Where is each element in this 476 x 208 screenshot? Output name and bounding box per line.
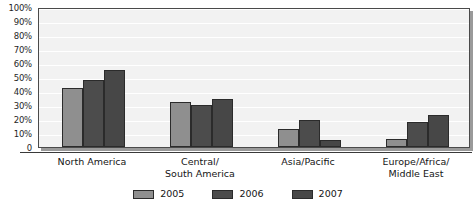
bar-2007-3[interactable] xyxy=(428,115,449,147)
y-axis-tick-label: 50% xyxy=(14,74,32,83)
y-axis-tick-label: 30% xyxy=(14,102,32,111)
bar-2006-2[interactable] xyxy=(299,120,320,147)
bar-chart: 010%20%30%40%50%60%70%80%90%100% North A… xyxy=(0,0,476,208)
y-axis-tick-label: 20% xyxy=(14,116,32,125)
y-axis-tick-label: 60% xyxy=(14,60,32,69)
legend-swatch-icon xyxy=(212,190,233,199)
bar-2007-2[interactable] xyxy=(320,140,341,147)
legend-swatch-icon xyxy=(133,190,154,199)
y-axis-tick-label: 80% xyxy=(14,32,32,41)
x-axis-category-label: Central/ South America xyxy=(165,156,235,179)
legend-item-label: 2006 xyxy=(239,189,263,199)
bar-2005-3[interactable] xyxy=(386,139,407,147)
x-axis-category-label: North America xyxy=(58,156,127,168)
legend-item-2007[interactable]: 2007 xyxy=(292,189,343,199)
bar-2005-1[interactable] xyxy=(170,102,191,147)
bar-2006-3[interactable] xyxy=(407,122,428,147)
x-axis-category-labels: North AmericaCentral/ South AmericaAsia/… xyxy=(38,156,470,186)
bar-group xyxy=(170,9,233,147)
y-axis: 010%20%30%40%50%60%70%80%90%100% xyxy=(0,0,36,152)
x-axis-category-label: Asia/Pacific xyxy=(281,156,334,168)
bar-group xyxy=(62,9,125,147)
bar-2006-1[interactable] xyxy=(191,105,212,147)
y-axis-tick-label: 40% xyxy=(14,88,32,97)
legend-swatch-icon xyxy=(292,190,313,199)
bar-group xyxy=(278,9,341,147)
bar-group xyxy=(386,9,449,147)
bar-2005-0[interactable] xyxy=(62,88,83,147)
bars-layer xyxy=(39,9,469,147)
legend-item-2006[interactable]: 2006 xyxy=(212,189,263,199)
y-axis-tick-label: 10% xyxy=(14,130,32,139)
bar-2006-0[interactable] xyxy=(83,80,104,147)
y-axis-tick-label: 70% xyxy=(14,46,32,55)
bar-2007-0[interactable] xyxy=(104,70,125,147)
y-axis-tick-label: 100% xyxy=(8,4,32,13)
x-axis-line xyxy=(20,152,472,153)
bar-2005-2[interactable] xyxy=(278,129,299,147)
legend-item-2005[interactable]: 2005 xyxy=(133,189,184,199)
legend-item-label: 2005 xyxy=(160,189,184,199)
y-axis-tick-label: 90% xyxy=(14,18,32,27)
x-axis-category-label: Europe/Africa/ Middle East xyxy=(383,156,450,179)
legend-item-label: 2007 xyxy=(319,189,343,199)
plot-area xyxy=(38,8,470,148)
chart-legend: 200520062007 xyxy=(0,189,476,199)
bar-2007-1[interactable] xyxy=(212,99,233,147)
